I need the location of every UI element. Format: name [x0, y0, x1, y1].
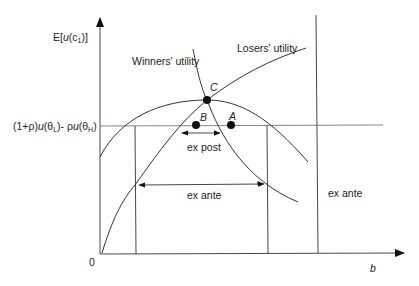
ex-ante-right-label: ex ante	[328, 187, 363, 199]
point-c	[203, 96, 211, 104]
losers-utility-label: Losers' utility	[237, 42, 298, 54]
ex-ante-center-label: ex ante	[187, 189, 222, 201]
far-vertical-line	[316, 15, 318, 253]
ex-ante-arrow-left-head	[138, 183, 145, 188]
left-bound-line	[135, 126, 136, 254]
right-bound-line	[267, 125, 268, 254]
ex-post-label: ex post	[187, 141, 221, 153]
reference-level-label: (1+ρ)u(θL)- ρu(θH)	[13, 120, 97, 133]
utility-diagram: E[u(c1)] (1+ρ)u(θL)- ρu(θH) Winners' uti…	[0, 0, 419, 286]
ex-ante-arrow	[140, 184, 264, 185]
y-axis-label: E[u(c1)]	[53, 31, 88, 44]
origin-label: 0	[89, 256, 95, 268]
point-b-label: B	[200, 111, 207, 123]
reference-line	[100, 125, 383, 126]
x-axis	[100, 253, 404, 254]
point-c-label: C	[210, 81, 218, 93]
ex-post-arrow-left-head	[181, 131, 188, 136]
point-a	[227, 121, 235, 129]
winners-utility-label: Winners' utility	[132, 55, 200, 67]
point-b	[192, 121, 200, 129]
x-axis-label: b	[370, 262, 376, 274]
point-a-label: A	[228, 110, 236, 122]
